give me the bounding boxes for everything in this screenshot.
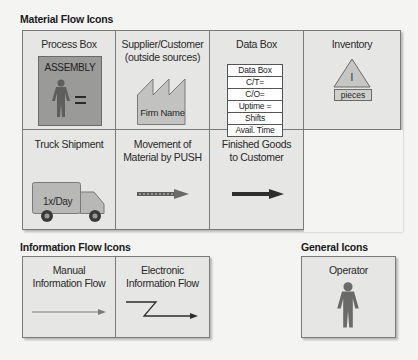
truck-text: 1x/Day <box>43 196 72 207</box>
push-label-2: Material by PUSH <box>116 151 209 164</box>
data-box-cell: Data Box Data Box C/T= C/O= Uptime = Shi… <box>210 31 304 130</box>
process-box-label: Process Box <box>23 38 115 51</box>
finished-label-1: Finished Goods <box>210 138 303 151</box>
general-icons-panel: Operator <box>301 256 396 338</box>
information-flow-title: Information Flow Icons <box>20 241 131 253</box>
factory-text: Firm Name <box>116 107 209 118</box>
general-icons-title: General Icons <box>301 241 368 253</box>
truck-cell: Truck Shipment 1x/Day <box>23 130 116 229</box>
information-flow-panel: Manual Information Flow Electronic Infor… <box>22 256 210 338</box>
supplier-label-2: (outside sources) <box>116 51 209 64</box>
manual-arrow-icon <box>32 309 106 315</box>
electronic-label-2: Information Flow <box>116 277 209 290</box>
inventory-label: Inventory <box>304 38 400 51</box>
data-box-row: Data Box <box>228 65 282 77</box>
supplier-cell: Supplier/Customer (outside sources) Firm… <box>116 31 210 130</box>
equals-icon <box>75 96 86 98</box>
manual-info-cell: Manual Information Flow <box>23 257 116 337</box>
operator-icon <box>51 79 71 119</box>
push-arrow-icon <box>137 189 189 199</box>
supplier-label-1: Supplier/Customer <box>116 38 209 51</box>
finished-goods-cell: Finished Goods to Customer <box>210 130 304 229</box>
material-flow-title: Material Flow Icons <box>20 13 113 25</box>
data-box-row: C/O= <box>228 89 282 101</box>
manual-label-1: Manual <box>23 264 115 277</box>
data-box-icon: Data Box C/T= C/O= Uptime = Shifts Avail… <box>227 64 283 137</box>
shipment-arrow-icon <box>232 189 284 199</box>
operator-label: Operator <box>302 264 395 277</box>
finished-label-2: to Customer <box>210 151 303 164</box>
data-box-label: Data Box <box>210 38 303 51</box>
push-cell: Movement of Material by PUSH <box>116 130 210 229</box>
electronic-zigzag-arrow-icon <box>126 301 200 321</box>
inventory-unit: pieces <box>334 89 372 101</box>
process-box-cell: Process Box ASSEMBLY <box>23 31 116 130</box>
electronic-info-cell: Electronic Information Flow <box>116 257 209 337</box>
manual-label-2: Information Flow <box>23 277 115 290</box>
operator-icon <box>334 282 362 330</box>
inventory-cell: Inventory I pieces <box>304 31 400 130</box>
electronic-label-1: Electronic <box>116 264 209 277</box>
data-box-row: Uptime = <box>228 101 282 113</box>
process-box-text: ASSEMBLY <box>39 62 101 73</box>
inventory-triangle-text: I <box>304 72 400 83</box>
data-box-row: C/T= <box>228 77 282 89</box>
empty-grid-slot <box>304 130 403 232</box>
push-label-1: Movement of <box>116 138 209 151</box>
truck-label: Truck Shipment <box>23 138 115 151</box>
equals-icon-line <box>75 102 86 104</box>
process-box-icon: ASSEMBLY <box>38 56 102 126</box>
data-box-row: Shifts <box>228 113 282 125</box>
